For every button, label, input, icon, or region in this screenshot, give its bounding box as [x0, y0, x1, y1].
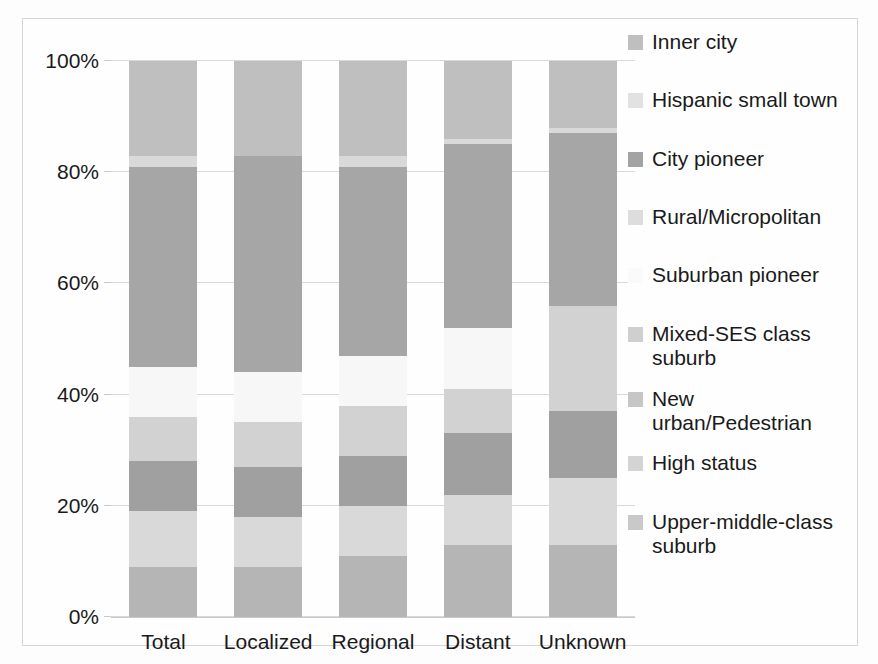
- bar-segment[interactable]: [549, 133, 617, 305]
- x-axis-tick-label: Unknown: [539, 631, 627, 652]
- legend-label: New urban/Pedestrian: [652, 387, 812, 436]
- chart-legend: Inner cityHispanic small townCity pionee…: [628, 30, 852, 572]
- bar-segment[interactable]: [129, 511, 197, 567]
- y-axis-tick-label: 100%: [45, 50, 99, 71]
- bar-stack: [339, 61, 407, 617]
- legend-label: Suburban pioneer: [652, 263, 819, 287]
- bar-segment[interactable]: [339, 556, 407, 617]
- bar-column[interactable]: Total: [129, 61, 197, 617]
- bar-segment[interactable]: [339, 406, 407, 456]
- legend-entry[interactable]: Mixed-SES class suburb: [628, 322, 852, 371]
- x-axis-tick-label: Localized: [224, 631, 313, 652]
- legend-swatch-icon: [628, 327, 643, 342]
- bar-segment[interactable]: [234, 422, 302, 466]
- bar-segment[interactable]: [129, 567, 197, 617]
- bar-stack: [129, 61, 197, 617]
- bar-segment[interactable]: [129, 167, 197, 367]
- legend-swatch-icon: [628, 210, 643, 225]
- legend-label: Inner city: [652, 30, 737, 54]
- legend-entry[interactable]: Rural/Micropolitan: [628, 205, 852, 229]
- bar-column[interactable]: Localized: [234, 61, 302, 617]
- legend-label: Upper-middle-class suburb: [652, 510, 833, 559]
- bar-segment[interactable]: [234, 517, 302, 567]
- y-axis-tick: [104, 394, 111, 395]
- bar-segment[interactable]: [444, 545, 512, 617]
- x-axis-tick-label: Regional: [332, 631, 415, 652]
- bar-segment[interactable]: [129, 461, 197, 511]
- bar-segment[interactable]: [444, 389, 512, 433]
- y-axis-tick-label: 80%: [57, 161, 99, 182]
- legend-swatch-icon: [628, 515, 643, 530]
- legend-entry[interactable]: Upper-middle-class suburb: [628, 510, 852, 559]
- legend-label: Hispanic small town: [652, 88, 838, 112]
- bar-segment[interactable]: [444, 433, 512, 494]
- legend-label: Rural/Micropolitan: [652, 205, 821, 229]
- bar-segment[interactable]: [234, 567, 302, 617]
- bar-segment[interactable]: [549, 61, 617, 128]
- y-axis-tick-label: 60%: [57, 272, 99, 293]
- bar-segment[interactable]: [129, 156, 197, 167]
- legend-swatch-icon: [628, 35, 643, 50]
- bar-segment[interactable]: [549, 545, 617, 617]
- legend-swatch-icon: [628, 268, 643, 283]
- bar-segment[interactable]: [234, 372, 302, 422]
- y-axis-tick: [104, 171, 111, 172]
- legend-label: City pioneer: [652, 147, 764, 171]
- legend-swatch-icon: [628, 152, 643, 167]
- bar-segment[interactable]: [129, 417, 197, 461]
- legend-entry[interactable]: New urban/Pedestrian: [628, 387, 852, 436]
- legend-entry[interactable]: City pioneer: [628, 147, 852, 171]
- legend-label: High status: [652, 451, 757, 475]
- bar-stack: [444, 61, 512, 617]
- bar-segment[interactable]: [339, 156, 407, 167]
- legend-entry[interactable]: Inner city: [628, 30, 852, 54]
- bar-segment[interactable]: [549, 306, 617, 412]
- bar-column[interactable]: Distant: [444, 61, 512, 617]
- bar-column[interactable]: Unknown: [549, 61, 617, 617]
- legend-swatch-icon: [628, 392, 643, 407]
- bar-segment[interactable]: [339, 167, 407, 356]
- bar-column[interactable]: Regional: [339, 61, 407, 617]
- legend-swatch-icon: [628, 456, 643, 471]
- x-axis-tick-label: Distant: [445, 631, 510, 652]
- y-axis-tick: [104, 60, 111, 61]
- bar-segment[interactable]: [339, 506, 407, 556]
- y-axis-tick: [104, 616, 111, 617]
- chart-figure: 100%80%60%40%20%0% TotalLocalizedRegiona…: [0, 0, 878, 664]
- bar-segment[interactable]: [549, 478, 617, 545]
- y-axis-tick-label: 0%: [69, 606, 99, 627]
- bar-segment[interactable]: [234, 156, 302, 373]
- bar-segment[interactable]: [444, 495, 512, 545]
- bar-segment[interactable]: [129, 367, 197, 417]
- y-axis-tick: [104, 282, 111, 283]
- bar-group: TotalLocalizedRegionalDistantUnknown: [111, 61, 635, 617]
- bar-segment[interactable]: [339, 356, 407, 406]
- plot-area: 100%80%60%40%20%0% TotalLocalizedRegiona…: [111, 61, 635, 617]
- legend-entry[interactable]: High status: [628, 451, 852, 475]
- y-axis-tick-label: 20%: [57, 494, 99, 515]
- bar-segment[interactable]: [549, 411, 617, 478]
- y-axis-tick-label: 40%: [57, 383, 99, 404]
- legend-swatch-icon: [628, 93, 643, 108]
- bar-stack: [234, 61, 302, 617]
- bar-segment[interactable]: [339, 61, 407, 156]
- bar-segment[interactable]: [234, 467, 302, 517]
- legend-label: Mixed-SES class suburb: [652, 322, 811, 371]
- legend-entry[interactable]: Suburban pioneer: [628, 263, 852, 287]
- bar-segment[interactable]: [339, 456, 407, 506]
- bar-segment[interactable]: [444, 144, 512, 327]
- bar-segment[interactable]: [444, 328, 512, 389]
- bar-segment[interactable]: [129, 61, 197, 156]
- bar-stack: [549, 61, 617, 617]
- legend-entry[interactable]: Hispanic small town: [628, 88, 852, 112]
- x-axis-line: [111, 617, 635, 618]
- bar-segment[interactable]: [444, 61, 512, 139]
- x-axis-tick-label: Total: [141, 631, 185, 652]
- y-axis-tick: [104, 505, 111, 506]
- bar-segment[interactable]: [234, 61, 302, 156]
